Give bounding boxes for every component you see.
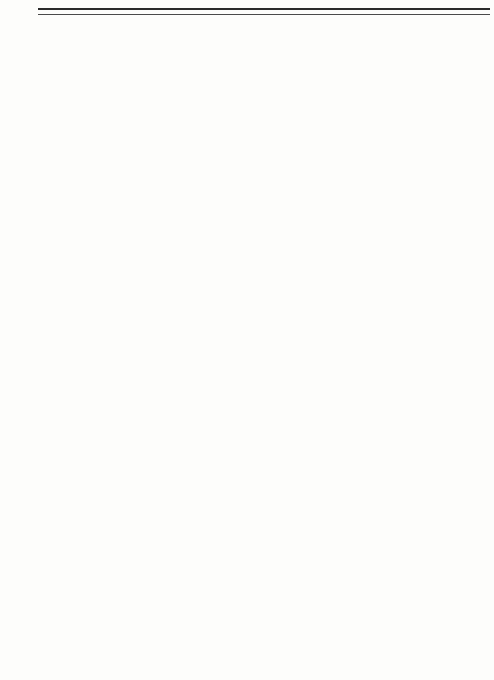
chart-plot-area bbox=[0, 0, 494, 680]
cone-shock-chart-figure bbox=[0, 0, 494, 680]
